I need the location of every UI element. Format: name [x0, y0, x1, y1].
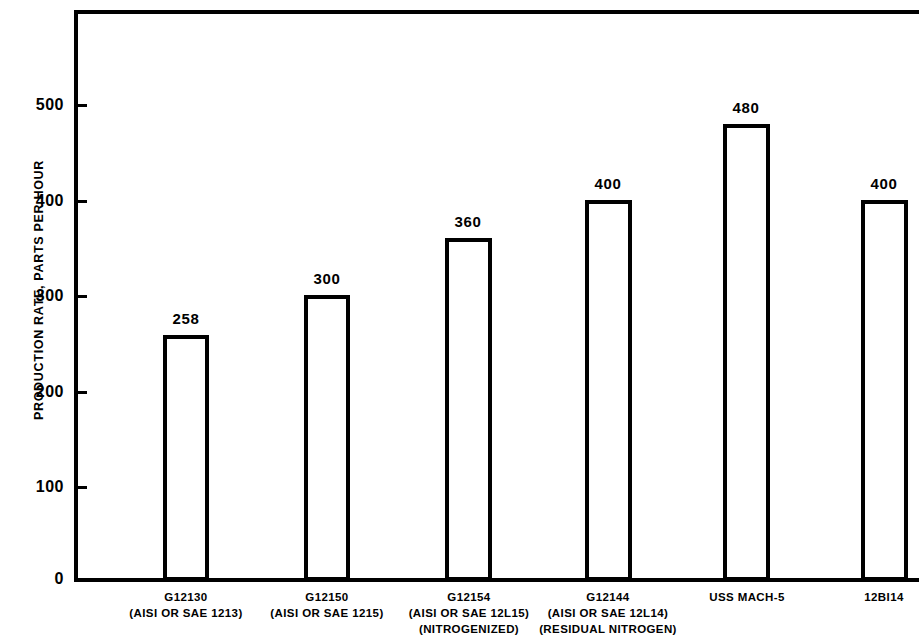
y-tick-500: [74, 104, 87, 107]
y-tick-100: [74, 486, 87, 489]
bar-value-g12144: 400: [563, 175, 653, 192]
bar-value-uss-mach-5: 480: [701, 99, 791, 116]
y-tick-0: [74, 578, 87, 581]
bar-value-g12154: 360: [423, 213, 513, 230]
bar-g12150: [304, 295, 350, 581]
y-tick-label-500: 500: [20, 96, 64, 114]
bar-g12130: [163, 335, 209, 581]
y-tick-400: [74, 200, 87, 203]
y-tick-200: [74, 391, 87, 394]
y-tick-300: [74, 295, 87, 298]
bar-value-12bi14: 400: [839, 175, 923, 192]
bar-value-g12150: 300: [282, 270, 372, 287]
y-tick-label-100: 100: [20, 478, 64, 496]
x-label-12bi14: 12BI14: [806, 589, 923, 605]
bar-12bi14: [861, 200, 908, 581]
y-tick-label-300: 300: [20, 287, 64, 305]
x-label-code: 12BI14: [806, 589, 923, 605]
y-tick-label-200: 200: [20, 383, 64, 401]
x-label-code: USS MACH-5: [668, 589, 826, 605]
y-tick-label-0: 0: [20, 570, 64, 588]
x-label-sub1: (AISI OR SAE 12L14): [500, 605, 716, 621]
bar-g12154: [445, 238, 492, 581]
bar-value-g12130: 258: [141, 310, 231, 327]
y-tick-label-400: 400: [20, 192, 64, 210]
x-label-uss-mach-5: USS MACH-5: [668, 589, 826, 605]
bar-g12144: [585, 200, 632, 581]
x-label-sub2: (RESIDUAL NITROGEN): [500, 621, 716, 637]
bar-uss-mach-5: [723, 124, 770, 581]
